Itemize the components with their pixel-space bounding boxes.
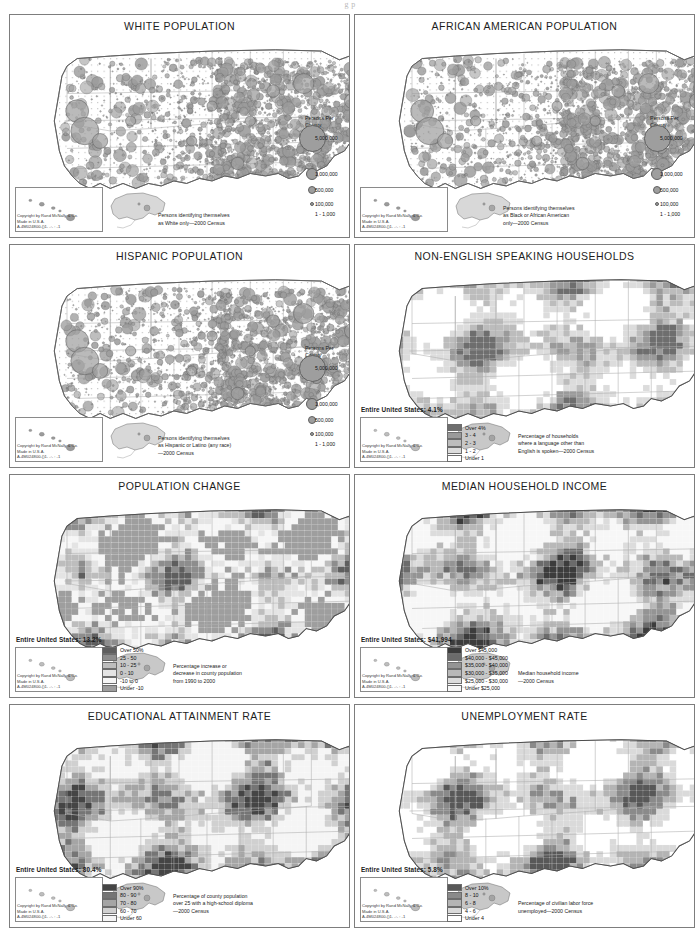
map-title: MEDIAN HOUSEHOLD INCOME: [355, 480, 694, 492]
legend-circle-label: 100,000: [315, 431, 333, 437]
copyright-notice: Copyright by Rand McNally & Co. Made in …: [17, 673, 78, 690]
legend-class-row: 0 - 10: [102, 669, 144, 677]
map-description-note: Persons identifying themselves as White …: [158, 212, 230, 227]
map-title: NON-ENGLISH SPEAKING HOUSEHOLDS: [355, 250, 694, 262]
legend-swatch: [447, 677, 462, 684]
legend-circle-label: 1 - 1,000: [315, 441, 335, 447]
legend-class-row: Under 4: [447, 914, 489, 922]
legend-class-label: 3 - 4: [465, 432, 476, 438]
legend-class-label: 10 - 25: [120, 662, 137, 668]
legend-class-row: -10 to 0: [102, 677, 144, 685]
map-panel-educational-attainment-rate[interactable]: EDUCATIONAL ATTAINMENT RATEEntire United…: [9, 704, 350, 928]
map-title: UNEMPLOYMENT RATE: [355, 710, 694, 722]
legend-class-label: 60 - 70: [120, 908, 137, 914]
legend-class-label: Under 4: [465, 915, 484, 921]
map-panel-population-change[interactable]: POPULATION CHANGEEntire United States: 1…: [9, 474, 350, 698]
map-panel-median-household-income[interactable]: MEDIAN HOUSEHOLD INCOMEEntire United Sta…: [354, 474, 695, 698]
legend-circle-3: [655, 202, 659, 206]
map-description-note: Percentage increase or decrease in count…: [173, 663, 242, 685]
legend-class-label: Over 90%: [120, 885, 144, 891]
legend-class-label: 80 - 90: [120, 892, 137, 898]
copyright-notice: Copyright by Rand McNally & Co. Made in …: [17, 443, 78, 460]
atlas-page: g p WHITE POPULATION Copyright by Rand M…: [0, 0, 700, 938]
choropleth-legend: Over 10%8 - 106 - 84 - 6Under 4: [447, 884, 489, 922]
map-panel-hispanic-population[interactable]: HISPANIC POPULATION Copyright by Rand Mc…: [9, 244, 350, 468]
legend-circle-label: 5,000,000: [315, 365, 338, 371]
legend-swatch: [447, 654, 462, 661]
legend-class-label: 0 - 10: [120, 670, 134, 676]
legend-swatch: [102, 892, 117, 899]
legend-class-label: $30,000 - $35,000: [465, 670, 508, 676]
map-description-note: Percentage of county population over 25 …: [173, 893, 253, 915]
legend-class-row: 1 - 2: [447, 447, 486, 455]
legend-class-row: 70 - 80: [102, 899, 144, 907]
legend-class-row: 6 - 8: [447, 899, 489, 907]
legend-class-label: 25 - 50: [120, 655, 137, 661]
map-panel-unemployment-rate[interactable]: UNEMPLOYMENT RATEEntire United States: 5…: [354, 704, 695, 928]
legend-swatch: [447, 685, 462, 692]
legend-swatch: [447, 424, 462, 431]
legend-class-row: $40,000 - $45,000: [447, 654, 508, 662]
legend-swatch: [447, 892, 462, 899]
legend-class-row: 8 - 10: [447, 892, 489, 900]
legend-swatch: [447, 899, 462, 906]
legend-class-row: Under $25,000: [447, 684, 508, 692]
legend-class-label: Over 10%: [465, 885, 489, 891]
proportional-circle-legend: Persons Per County5,000,0001,000,000500,…: [283, 345, 345, 461]
legend-swatch: [447, 884, 462, 891]
legend-class-row: $30,000 - $35,000: [447, 669, 508, 677]
map-panel-white-population[interactable]: WHITE POPULATION Copyright by Rand McNal…: [9, 14, 350, 238]
legend-swatch: [447, 915, 462, 922]
copyright-notice: Copyright by Rand McNally & Co. Made in …: [362, 213, 423, 230]
legend-swatch: [447, 669, 462, 676]
national-statistic: Entire United States: 80.4%: [16, 866, 101, 873]
legend-class-row: Under 60: [102, 914, 144, 922]
proportional-circle-legend: Persons Per County5,000,0001,000,000500,…: [283, 115, 345, 231]
legend-class-row: Under -10: [102, 684, 144, 692]
legend-circle-label: 5,000,000: [660, 135, 683, 141]
legend-class-row: Over 10%: [447, 884, 489, 892]
map-description-note: Persons identifying themselves as Hispan…: [158, 435, 231, 457]
legend-circle-label: 100,000: [660, 201, 678, 207]
copyright-notice: Copyright by Rand McNally & Co. Made in …: [362, 443, 423, 460]
legend-class-label: Under -10: [120, 685, 144, 691]
legend-swatch: [102, 662, 117, 669]
copyright-notice: Copyright by Rand McNally & Co. Made in …: [17, 213, 78, 230]
legend-circle-3: [310, 202, 314, 206]
legend-class-label: 70 - 80: [120, 900, 137, 906]
copyright-notice: Copyright by Rand McNally & Co. Made in …: [362, 673, 423, 690]
choropleth-legend: Over 4%3 - 42 - 31 - 2Under 1: [447, 424, 486, 462]
legend-class-row: Under 1: [447, 454, 486, 462]
legend-circle-3: [310, 432, 314, 436]
legend-class-label: Over 4%: [465, 425, 486, 431]
legend-class-label: 6 - 8: [465, 900, 476, 906]
national-statistic: Entire United States: 13.2%: [16, 636, 101, 643]
legend-class-label: Over 50%: [120, 647, 144, 653]
legend-class-label: $35,000 - $40,000: [465, 662, 508, 668]
legend-class-row: 2 - 3: [447, 439, 486, 447]
legend-swatch: [447, 647, 462, 654]
legend-swatch: [102, 915, 117, 922]
map-panel-african-american-population[interactable]: AFRICAN AMERICAN POPULATION Copyright by…: [354, 14, 695, 238]
legend-swatch: [447, 907, 462, 914]
legend-class-label: Under $25,000: [465, 685, 500, 691]
legend-class-label: 8 - 10: [465, 892, 479, 898]
legend-circle-label: 1 - 1,000: [660, 211, 680, 217]
legend-class-row: Over 50%: [102, 646, 144, 654]
legend-class-label: 1 - 2: [465, 448, 476, 454]
legend-class-row: 80 - 90: [102, 892, 144, 900]
map-panel-non-english-speaking-households[interactable]: NON-ENGLISH SPEAKING HOUSEHOLDSEntire Un…: [354, 244, 695, 468]
map-description-note: Persons identifying themselves as Black …: [503, 205, 575, 227]
proportional-circle-legend: Persons Per County5,000,0001,000,000500,…: [628, 115, 690, 231]
map-description-note: Median household income —2000 Census: [518, 670, 579, 685]
legend-class-row: Over $45,000: [447, 646, 508, 654]
map-title: POPULATION CHANGE: [10, 480, 349, 492]
national-statistic: Entire United States: $41,994: [361, 636, 452, 643]
legend-circle-label: 5,000,000: [315, 135, 338, 141]
legend-circle-label: 1,000,000: [315, 171, 338, 177]
page-header-fragment: g p: [0, 0, 700, 12]
legend-class-row: 25 - 50: [102, 654, 144, 662]
legend-circle-label: 500,000: [315, 187, 333, 193]
copyright-notice: Copyright by Rand McNally & Co. Made in …: [362, 903, 423, 920]
national-statistic: Entire United States: 5.8%: [361, 866, 443, 873]
